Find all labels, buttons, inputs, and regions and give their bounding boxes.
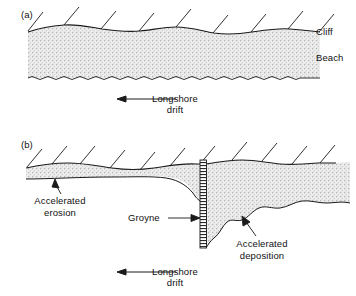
panel-b-drift-label-line2: drift bbox=[120, 277, 230, 289]
deposition-leader bbox=[242, 216, 256, 236]
deposition-label-line2: deposition bbox=[212, 250, 312, 262]
panel-a-group bbox=[28, 7, 334, 102]
erosion-label-line1: Accelerated bbox=[10, 195, 110, 207]
panel-a-drift-label-line1: Longshore bbox=[120, 93, 230, 105]
panel-a-beach-body bbox=[28, 25, 320, 78]
erosion-leader bbox=[52, 179, 61, 194]
deposition-label-line1: Accelerated bbox=[212, 238, 312, 250]
groyne-body bbox=[200, 160, 207, 248]
panel-b-beach-downdrift bbox=[206, 160, 350, 248]
erosion-label-line2: erosion bbox=[10, 207, 110, 219]
beach-label: Beach bbox=[316, 52, 343, 64]
panel-b-tag: (b) bbox=[21, 139, 33, 150]
groyne-leader bbox=[168, 215, 200, 222]
coastal-diagram-figure: (a) Cliff Beach Longshore drift (b) Acce… bbox=[0, 0, 356, 296]
groyne-label: Groyne bbox=[128, 212, 160, 224]
cliff-label: Cliff bbox=[316, 26, 333, 38]
panel-a-tag: (a) bbox=[21, 9, 33, 20]
panel-a-drift-label-line2: drift bbox=[120, 104, 230, 116]
groyne-structure bbox=[200, 160, 207, 248]
panel-b-drift-label-line1: Longshore bbox=[120, 266, 230, 278]
